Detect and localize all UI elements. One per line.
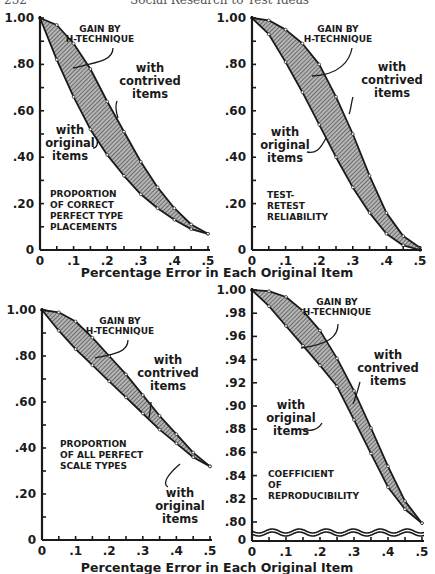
gain-label: H-TECHNIQUE xyxy=(303,307,371,317)
x-axis-label-bottom: Percentage Error in Each Original Item xyxy=(81,560,353,574)
data-point xyxy=(385,232,388,235)
y-tick-label: .20 xyxy=(13,197,34,211)
y-tick-label: 1.00 xyxy=(216,11,246,25)
data-point xyxy=(336,357,339,360)
contrived-items-label: items xyxy=(132,87,168,101)
data-point xyxy=(301,91,304,94)
data-point xyxy=(89,128,92,131)
axis-break-line xyxy=(252,529,424,533)
gain-label: H-TECHNIQUE xyxy=(66,34,134,44)
y-tick-label: .60 xyxy=(15,395,36,409)
gain-label: GAIN BY xyxy=(99,316,141,326)
chart-panel-tl: 0.1.2.3.4.50.20.40.60.801.00GAIN BYH-TEC… xyxy=(4,11,214,268)
gain-label: GAIN BY xyxy=(317,24,359,34)
data-point xyxy=(318,63,321,66)
data-point xyxy=(141,394,144,397)
panel-title: PROPORTION xyxy=(60,439,127,449)
data-point xyxy=(336,385,339,388)
contrived-items-label: items xyxy=(370,374,406,388)
contrived-items-label: with xyxy=(378,60,406,74)
x-tick-label: .1 xyxy=(67,254,80,268)
panel-title: RETEST xyxy=(267,201,306,211)
data-point xyxy=(55,24,58,27)
data-point xyxy=(267,33,270,36)
contrived-items-label: items xyxy=(150,379,186,393)
y-tick-label: .20 xyxy=(225,197,246,211)
gain-label: H-TECHNIQUE xyxy=(304,34,372,44)
original-items-label: with xyxy=(271,125,299,139)
panel-title: SCALE TYPES xyxy=(60,461,127,471)
data-point xyxy=(267,19,270,22)
x-tick-label: .3 xyxy=(136,544,149,558)
x-tick-label: 0 xyxy=(248,545,256,559)
data-point xyxy=(285,325,288,328)
original-items-label: items xyxy=(267,151,303,165)
original-arrow-icon xyxy=(165,464,180,487)
y-tick-label: .40 xyxy=(225,150,246,164)
data-point xyxy=(284,28,287,31)
y-tick-label: .80 xyxy=(225,57,246,71)
panel-title: OF xyxy=(268,480,282,490)
y-tick-label: .20 xyxy=(15,487,36,501)
data-point xyxy=(353,419,356,422)
data-point xyxy=(72,95,75,98)
contrived-arrow-icon xyxy=(116,101,118,118)
data-point xyxy=(106,100,109,103)
gain-label: GAIN BY xyxy=(79,24,121,34)
data-point xyxy=(190,228,193,231)
data-point xyxy=(319,364,322,367)
panel-title: TEST- xyxy=(267,190,295,200)
data-point xyxy=(268,290,271,293)
gain-label: H-TECHNIQUE xyxy=(86,326,154,336)
y-tick-label: .80 xyxy=(15,349,36,363)
original-items-label: with xyxy=(277,398,305,412)
data-point xyxy=(57,329,60,332)
data-point xyxy=(368,211,371,214)
contrived-arrow-icon xyxy=(349,97,353,114)
y-tick-label: .80 xyxy=(13,57,34,71)
chart-panel-bl: 0.1.2.3.4.50.20.40.60.801.00GAIN BYH-TEC… xyxy=(6,303,216,558)
data-point xyxy=(387,486,390,489)
x-tick-label: .3 xyxy=(348,545,361,559)
y-tick-label: .40 xyxy=(15,441,36,455)
y-tick-label: .40 xyxy=(13,150,34,164)
figure: 0.1.2.3.4.50.20.40.60.801.00GAIN BYH-TEC… xyxy=(0,0,435,574)
original-items-label: original xyxy=(155,499,205,513)
x-tick-label: .4 xyxy=(380,254,393,268)
data-point xyxy=(335,156,338,159)
contrived-items-label: with xyxy=(136,61,164,75)
original-items-label: original xyxy=(260,138,310,152)
data-point xyxy=(156,207,159,210)
data-point xyxy=(404,500,407,503)
x-tick-label: 0 xyxy=(36,254,44,268)
data-point xyxy=(91,364,94,367)
data-point xyxy=(173,207,176,210)
data-point xyxy=(158,414,161,417)
y-tick-label: .60 xyxy=(13,104,34,118)
contrived-items-label: contrived xyxy=(357,361,419,375)
x-axis-label-top: Percentage Error in Each Original Item xyxy=(81,265,353,280)
y-tick-label: .96 xyxy=(225,329,246,343)
y-tick-label: .92 xyxy=(225,376,246,390)
data-point xyxy=(175,433,178,436)
data-point xyxy=(192,451,195,454)
data-point xyxy=(123,130,126,133)
data-point xyxy=(139,193,142,196)
data-point xyxy=(74,320,77,323)
original-items-label: items xyxy=(52,149,88,163)
data-point xyxy=(319,329,322,332)
y-tick-label: .84 xyxy=(225,469,246,483)
data-point xyxy=(421,522,424,525)
y-tick-label: .98 xyxy=(225,306,246,320)
data-point xyxy=(108,380,111,383)
x-tick-label: .2 xyxy=(103,544,116,558)
y-tick-label: .60 xyxy=(225,104,246,118)
x-tick-label: .1 xyxy=(280,545,293,559)
y-tick-label: .80 xyxy=(225,515,246,529)
panel-title: RELIABILITY xyxy=(267,212,329,222)
y-tick-label: 0 xyxy=(28,533,36,547)
y-tick-label: 0 xyxy=(238,243,246,257)
panel-title: REPRODUCIBILITY xyxy=(268,491,359,501)
data-point xyxy=(284,61,287,64)
x-tick-label: .4 xyxy=(382,545,395,559)
